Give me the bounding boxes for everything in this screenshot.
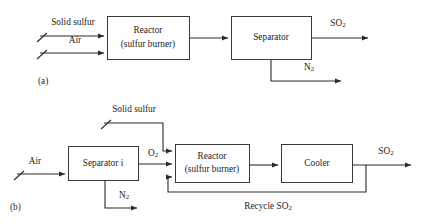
- unit-separator-a-line1: Separator: [253, 32, 290, 42]
- label-so2-b: SO2: [378, 146, 394, 156]
- unit-reactor-a[interactable]: Reactor (sulfur burner): [108, 17, 190, 60]
- label-air-b: Air: [29, 156, 42, 166]
- unit-separator-a[interactable]: Separator: [232, 17, 312, 60]
- figure-canvas: Solid sulfur Air Reactor (sulfur burner): [0, 0, 422, 224]
- unit-cooler-label: Cooler: [304, 158, 330, 168]
- label-so2-a: SO2: [330, 18, 346, 28]
- panel-label-a: (a): [38, 76, 48, 87]
- label-solid-sulfur-b: Solid sulfur: [112, 104, 157, 114]
- stream-n2-b: N2: [105, 181, 137, 209]
- stream-so2-a: SO2: [312, 18, 369, 38]
- process-flow-diagram: Solid sulfur Air Reactor (sulfur burner): [0, 0, 422, 224]
- unit-reactor-a-line2: (sulfur burner): [121, 39, 175, 50]
- stream-n2-a: N2: [271, 60, 341, 82]
- panel-label-b: (b): [10, 202, 21, 213]
- label-o2-b: O2: [148, 148, 159, 158]
- unit-reactor-b[interactable]: Reactor (sulfur burner): [176, 145, 250, 183]
- stream-air-a: Air: [37, 35, 104, 59]
- unit-cooler-b[interactable]: Cooler: [282, 145, 353, 183]
- label-n2-b: N2: [119, 190, 130, 200]
- label-air-a: Air: [69, 35, 82, 45]
- stream-air-b: Air: [14, 156, 65, 180]
- unit-reactor-b-line1: Reactor: [198, 151, 228, 161]
- label-solid-sulfur-a: Solid sulfur: [51, 17, 96, 27]
- panel-b: Air Separator i Solid sulfur O2 N2: [10, 104, 411, 213]
- stream-so2-b: SO2: [353, 146, 412, 165]
- unit-separator-i-b[interactable]: Separator i: [69, 147, 139, 181]
- unit-separator-i-label: Separator i: [83, 158, 124, 168]
- label-n2-a: N2: [304, 62, 315, 72]
- unit-reactor-b-line2: (sulfur burner): [185, 164, 239, 175]
- unit-reactor-a-line1: Reactor: [134, 25, 164, 35]
- panel-a: Solid sulfur Air Reactor (sulfur burner): [37, 17, 368, 88]
- stream-solid-sulfur-b: Solid sulfur: [101, 104, 172, 151]
- label-recycle-so2: Recycle SO2: [244, 201, 292, 211]
